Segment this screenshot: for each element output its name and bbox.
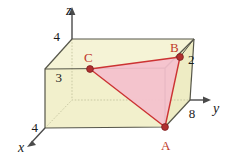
point-label-B: B — [170, 40, 179, 55]
point-C-dot[interactable] — [87, 66, 94, 73]
geometry-svg: z y x 4 3 4 8 2 A B C — [0, 0, 237, 160]
axis-y-arrowhead — [203, 97, 211, 104]
axis-label-y: y — [211, 101, 220, 116]
point-label-A: A — [161, 138, 171, 153]
geometry-figure: z y x 4 3 4 8 2 A B C — [0, 0, 237, 160]
point-A-dot[interactable] — [162, 124, 169, 131]
tick-label-x-4: 4 — [32, 120, 39, 135]
tick-label-b-2: 2 — [188, 52, 195, 67]
axis-x-arrowhead — [27, 141, 36, 148]
tick-label-y-8: 8 — [189, 106, 196, 121]
tick-label-z-4: 4 — [54, 29, 61, 44]
axis-label-z: z — [65, 3, 72, 18]
tick-label-z-3: 3 — [56, 70, 63, 85]
point-label-C: C — [84, 50, 93, 65]
axis-label-x: x — [17, 140, 25, 155]
